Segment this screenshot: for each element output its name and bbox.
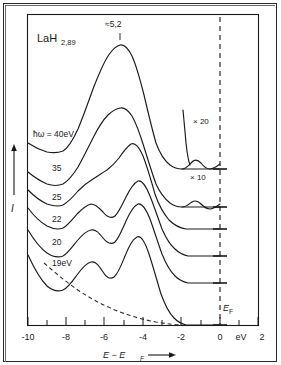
curve-label-35ev: 35 <box>52 163 62 173</box>
x-tick-label-4: -2 <box>177 332 185 342</box>
figure-page: ≈5,2 LaH 2,89 ħω = 40eV 35 25 22 20 19eV… <box>0 0 281 365</box>
curve-label-40ev: ħω = 40eV <box>33 129 74 139</box>
x-axis-unit-label: eV <box>235 332 246 342</box>
curve-label-22ev: 22 <box>52 214 62 224</box>
sample-formula: LaH <box>37 32 57 44</box>
sample-formula-subscript: 2,89 <box>61 38 76 47</box>
x-tick-label-2: -6 <box>100 332 108 342</box>
x-axis-title-subscript: F <box>140 355 145 362</box>
photoemission-figure: ≈5,2 LaH 2,89 ħω = 40eV 35 25 22 20 19eV… <box>0 0 281 365</box>
spectrum-curve-19ev <box>28 237 227 325</box>
magnified-tail-20x <box>183 110 190 165</box>
x-axis-title: E − E F <box>103 350 176 362</box>
peak-value-label: ≈5,2 <box>105 19 122 29</box>
x-tick-label-1: -8 <box>62 332 70 342</box>
x-tick-label-5: 0 <box>217 332 222 342</box>
x-tick-label-0: -10 <box>21 332 34 342</box>
magnification-label-10x: × 10 <box>190 173 206 182</box>
curve-label-20ev: 20 <box>52 237 62 247</box>
sample-title: LaH 2,89 <box>37 32 76 47</box>
x-axis-ticks <box>28 317 258 325</box>
curve-label-25ev: 25 <box>52 192 62 202</box>
x-tick-label-6: 2 <box>259 332 264 342</box>
x-axis-title-text: E − E <box>103 350 126 360</box>
curve-label-19ev: 19eV <box>52 258 72 268</box>
chart-svg: ≈5,2 LaH 2,89 ħω = 40eV 35 25 22 20 19eV… <box>0 0 281 365</box>
y-axis-label: I <box>11 203 14 214</box>
spectrum-curve-40ev <box>28 45 227 169</box>
fermi-level-label: E F <box>223 303 233 315</box>
x-tick-label-3: -4 <box>139 332 147 342</box>
magnification-label-20x: × 20 <box>193 117 209 126</box>
fermi-label-subscript: F <box>229 308 233 315</box>
y-axis-arrow <box>11 144 17 195</box>
